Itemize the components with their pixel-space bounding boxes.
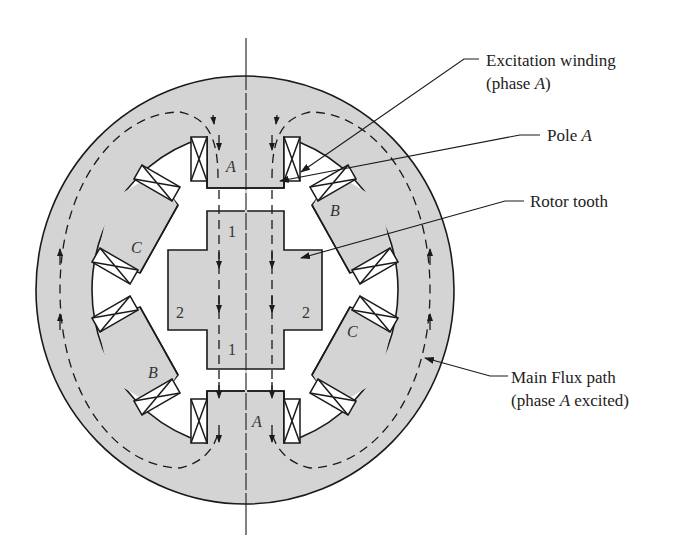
callout-main-flux-path: Main Flux path — [511, 368, 616, 387]
winding-a-bottom-right — [284, 399, 300, 443]
rotor-label-2-right: 2 — [302, 304, 310, 321]
rotor-label-1-top: 1 — [228, 223, 236, 240]
srm-diagram: A A B B C C 1 1 2 2 Excitation winding (… — [0, 0, 689, 556]
winding-a-top-right — [284, 137, 300, 181]
winding-a-top-left — [191, 137, 207, 181]
pole-label-a-bottom: A — [251, 413, 262, 430]
rotor-label-2-left: 2 — [176, 304, 184, 321]
pole-label-c-left: C — [131, 239, 142, 256]
pole-label-a-top: A — [225, 158, 236, 175]
pole-label-b-upper-right: B — [330, 202, 340, 219]
winding-a-bottom-left — [191, 399, 207, 443]
callout-pole-a: Pole A — [547, 126, 592, 145]
callout-excitation-winding: Excitation winding — [486, 51, 616, 70]
pole-label-b-lower-left: B — [148, 364, 158, 381]
pole-label-c-right: C — [347, 323, 358, 340]
callout-rotor-tooth: Rotor tooth — [530, 192, 608, 211]
rotor-label-1-bottom: 1 — [228, 341, 236, 358]
callout-excitation-winding-phase: (phase A) — [486, 74, 551, 93]
callout-main-flux-path-phase: (phase A excited) — [511, 391, 629, 410]
